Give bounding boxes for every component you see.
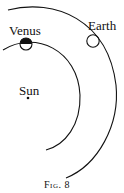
venus-label: Venus — [9, 24, 41, 37]
figure-caption: Fig. 8 — [44, 180, 70, 190]
earth-planet — [87, 35, 99, 47]
sun-label: Sun — [19, 84, 39, 97]
venus-planet — [20, 38, 32, 50]
earth-label: Earth — [88, 19, 116, 32]
venus-orbit — [3, 42, 80, 150]
